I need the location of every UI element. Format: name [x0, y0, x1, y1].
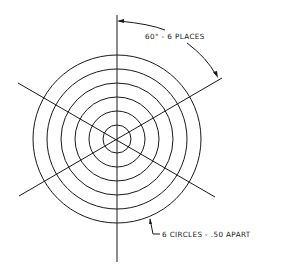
angle-dimension: 60° - 6 PLACES — [117, 19, 218, 78]
circles-leader: 6 CIRCLES - .50 APART — [149, 218, 251, 239]
angle-dimension-arc-upper — [119, 21, 165, 30]
leader-line — [150, 219, 160, 234]
angle-dimension-arc-lower — [187, 43, 216, 75]
arrowhead-left-icon — [117, 19, 124, 23]
angle-dimension-label: 60° - 6 PLACES — [145, 32, 205, 41]
polar-target-drawing: 60° - 6 PLACES 6 CIRCLES - .50 APART — [0, 0, 281, 272]
arrowhead-right-icon — [213, 71, 218, 78]
leader-arrowhead-icon — [149, 218, 152, 224]
circles-spacing-label: 6 CIRCLES - .50 APART — [162, 230, 251, 239]
radial-lines — [18, 15, 222, 262]
